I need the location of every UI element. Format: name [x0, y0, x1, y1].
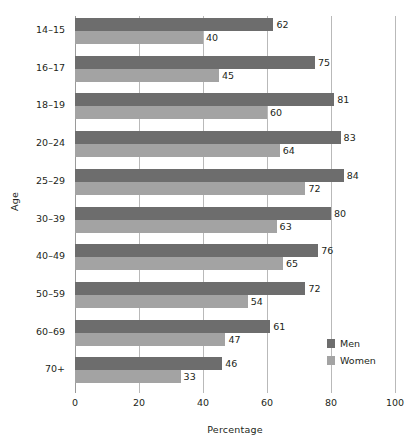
legend-swatch-icon — [327, 339, 335, 348]
y-tick-label: 14–15 — [0, 24, 65, 35]
y-tick-label: 60–69 — [0, 326, 65, 337]
x-tick-label: 0 — [55, 397, 95, 408]
y-tick-label: 40–49 — [0, 250, 65, 261]
bar-value-label: 45 — [219, 69, 234, 82]
bar-group: 16–177545 — [75, 56, 395, 94]
bar-value-label: 46 — [222, 357, 237, 370]
legend-label: Men — [340, 338, 360, 349]
y-tick-label: 50–59 — [0, 288, 65, 299]
bar-value-label: 62 — [273, 18, 288, 31]
bar-value-label: 84 — [344, 169, 359, 182]
bar-group: 18–198160 — [75, 93, 395, 131]
bar-value-label: 61 — [270, 320, 285, 333]
bar-value-label: 33 — [181, 370, 196, 383]
y-tick-label: 16–17 — [0, 62, 65, 73]
bar-group: 40–497665 — [75, 244, 395, 282]
bar-women — [75, 144, 280, 157]
bar-value-label: 65 — [283, 257, 298, 270]
y-tick-label: 18–19 — [0, 99, 65, 110]
legend-label: Women — [340, 355, 376, 366]
bar-value-label: 76 — [318, 244, 333, 257]
bar-group: 50–597254 — [75, 282, 395, 320]
bar-men — [75, 169, 344, 182]
bar-value-label: 54 — [248, 295, 263, 308]
x-tick-label: 20 — [119, 397, 159, 408]
bar-women — [75, 370, 181, 383]
y-tick-label: 70+ — [0, 363, 65, 374]
legend-swatch-icon — [327, 356, 335, 365]
bar-women — [75, 31, 203, 44]
x-tick-label: 40 — [183, 397, 223, 408]
bar-chart: Age 14–15624016–17754518–19816020–248364… — [0, 0, 409, 444]
bar-group: 25–298472 — [75, 169, 395, 207]
x-tick-label: 60 — [247, 397, 287, 408]
bar-value-label: 83 — [341, 131, 356, 144]
x-tick-label: 100 — [375, 397, 409, 408]
bar-value-label: 80 — [331, 207, 346, 220]
bar-value-label: 64 — [280, 144, 295, 157]
bar-value-label: 60 — [267, 106, 282, 119]
bar-men — [75, 131, 341, 144]
bar-value-label: 75 — [315, 56, 330, 69]
bar-value-label: 72 — [305, 182, 320, 195]
bar-value-label: 81 — [334, 93, 349, 106]
bar-value-label: 72 — [305, 282, 320, 295]
bar-women — [75, 220, 277, 233]
bar-value-label: 40 — [203, 31, 218, 44]
bar-men — [75, 244, 318, 257]
chart-legend: MenWomen — [327, 336, 376, 370]
y-tick-label: 30–39 — [0, 213, 65, 224]
gridline-100 — [395, 16, 396, 393]
bar-men — [75, 320, 270, 333]
y-tick-label: 25–29 — [0, 175, 65, 186]
bar-group: 30–398063 — [75, 207, 395, 245]
x-tick-label: 80 — [311, 397, 351, 408]
bar-women — [75, 106, 267, 119]
y-tick-label: 20–24 — [0, 137, 65, 148]
bar-group: 20–248364 — [75, 131, 395, 169]
legend-item: Women — [327, 353, 376, 368]
bar-men — [75, 282, 305, 295]
bar-value-label: 47 — [225, 333, 240, 346]
legend-item: Men — [327, 336, 376, 351]
bar-men — [75, 56, 315, 69]
bar-women — [75, 295, 248, 308]
bar-women — [75, 69, 219, 82]
bar-group: 14–156240 — [75, 18, 395, 56]
x-axis-title: Percentage — [75, 424, 395, 435]
bar-men — [75, 18, 273, 31]
bar-women — [75, 182, 305, 195]
bar-women — [75, 333, 225, 346]
bar-men — [75, 93, 334, 106]
bar-value-label: 63 — [277, 220, 292, 233]
bar-men — [75, 357, 222, 370]
bar-women — [75, 257, 283, 270]
bar-men — [75, 207, 331, 220]
